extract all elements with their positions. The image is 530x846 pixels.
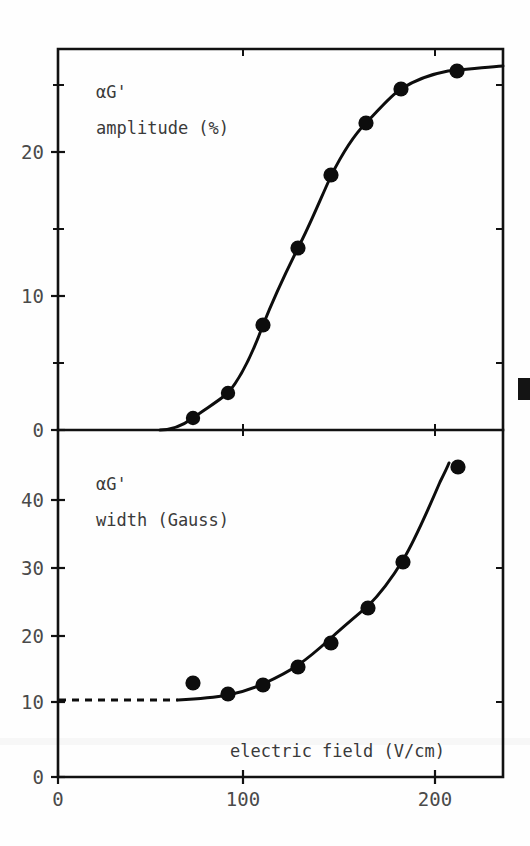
bottom-y-tick-label-40: 40 bbox=[21, 489, 44, 511]
x-axis-title: electric field (V/cm) bbox=[230, 741, 445, 761]
data-point bbox=[185, 675, 200, 690]
data-point bbox=[323, 167, 338, 182]
data-point bbox=[395, 554, 410, 569]
data-point bbox=[290, 659, 305, 674]
data-point bbox=[290, 240, 305, 255]
x-tick-label-100: 100 bbox=[226, 788, 260, 810]
data-point bbox=[358, 115, 373, 130]
figure-canvas: 0 10 20 αG' amplitude (%) bbox=[0, 0, 530, 846]
top-y-tick-label-10: 10 bbox=[21, 285, 44, 307]
top-y-tick-label-0: 0 bbox=[33, 419, 44, 441]
bottom-y-tick-label-0: 0 bbox=[33, 766, 44, 788]
bottom-panel-fit-curve bbox=[178, 463, 449, 700]
scientific-figure: 0 10 20 αG' amplitude (%) bbox=[0, 0, 530, 846]
data-point bbox=[450, 459, 465, 474]
data-point bbox=[255, 317, 270, 332]
x-tick-label-200: 200 bbox=[418, 788, 452, 810]
x-tick-label-0: 0 bbox=[52, 788, 63, 810]
data-point bbox=[393, 81, 408, 96]
bottom-panel-data-points bbox=[185, 459, 465, 701]
top-panel-label-line1: αG' bbox=[96, 82, 127, 102]
bottom-y-tick-label-30: 30 bbox=[21, 557, 44, 579]
bottom-y-tick-label-20: 20 bbox=[21, 625, 44, 647]
cropped-margin-mark bbox=[518, 378, 530, 400]
data-point bbox=[255, 677, 270, 692]
bottom-panel-label-line2: width (Gauss) bbox=[96, 510, 229, 530]
bottom-panel-label-line1: αG' bbox=[96, 474, 127, 494]
data-point bbox=[186, 411, 200, 425]
data-point bbox=[360, 600, 375, 615]
data-point bbox=[323, 635, 338, 650]
bottom-y-tick-label-10: 10 bbox=[21, 691, 44, 713]
top-panel-label-line2: amplitude (%) bbox=[96, 118, 229, 138]
data-point bbox=[220, 686, 235, 701]
top-y-tick-label-20: 20 bbox=[21, 141, 44, 163]
data-point bbox=[221, 386, 235, 400]
top-panel-frame bbox=[58, 49, 503, 430]
data-point bbox=[449, 63, 464, 78]
